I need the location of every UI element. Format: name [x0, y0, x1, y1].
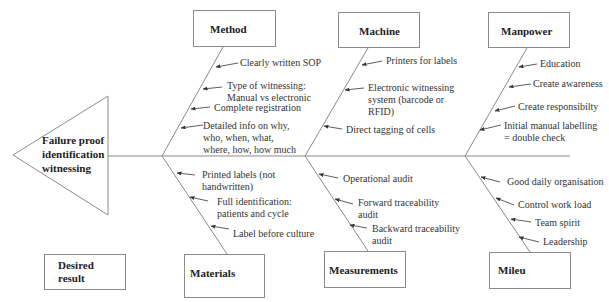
- cause-manpower-2: Create awareness: [533, 78, 603, 90]
- category-label-mileu: Mileu: [498, 264, 526, 277]
- cause-measurements-1: Operational audit: [343, 173, 413, 185]
- cause-machine-2: Electronic witnessing system (barcode or…: [368, 82, 454, 118]
- category-box-machine: Machine: [338, 12, 420, 48]
- cause-method-1: Clearly written SOP: [240, 57, 321, 69]
- category-box-measurements: Measurements: [324, 251, 406, 288]
- cause-mileu-1: Good daily organisation: [507, 176, 603, 188]
- category-label-measurements: Measurements: [329, 264, 398, 277]
- cause-manpower-3: Create responsibilty: [518, 101, 598, 113]
- category-label-manpower: Manpower: [501, 25, 552, 38]
- cause-measurements-2: Forward traceability audit: [358, 197, 439, 221]
- cause-method-2: Type of witnessing: Manual vs electronic: [227, 80, 311, 104]
- cause-materials-1: Printed labels (not handwritten): [202, 169, 275, 193]
- category-label-machine: Machine: [359, 25, 400, 38]
- cause-manpower-4: Initial manual labelling = double check: [504, 120, 597, 144]
- desired-result-line: result: [58, 272, 94, 285]
- desired-result-label: Desired result: [58, 259, 94, 285]
- cause-method-4: Detailed info on why, who, when, what, w…: [203, 120, 296, 156]
- cause-machine-3: Direct tagging of cells: [346, 124, 435, 136]
- effect-line: identification: [42, 147, 104, 161]
- cause-mileu-2: Control work load: [518, 199, 591, 211]
- category-box-method: Method: [193, 10, 276, 47]
- category-box-manpower: Manpower: [488, 12, 570, 48]
- desired-result-line: Desired: [58, 259, 94, 272]
- effect-line: Failure proof: [42, 133, 104, 147]
- cause-materials-2: Full identification: patients and cycle: [217, 196, 292, 220]
- cause-measurements-3: Backward traceability audit: [372, 223, 460, 247]
- effect-label: Failure proof identification witnessing: [42, 133, 104, 175]
- category-label-method: Method: [210, 23, 247, 36]
- category-label-materials: Materials: [190, 267, 235, 280]
- cause-machine-1: Printers for labels: [386, 55, 457, 67]
- category-box-materials: Materials: [184, 254, 265, 298]
- cause-mileu-4: Leadership: [543, 236, 587, 248]
- cause-mileu-3: Team spirit: [535, 217, 580, 229]
- cause-manpower-1: Education: [540, 58, 581, 70]
- cause-materials-3: Label before culture: [233, 228, 314, 240]
- effect-line: witnessing: [42, 161, 104, 175]
- cause-method-3: Complete registration: [214, 102, 301, 114]
- desired-result-box: Desired result: [44, 254, 126, 290]
- category-box-mileu: Mileu: [489, 252, 571, 289]
